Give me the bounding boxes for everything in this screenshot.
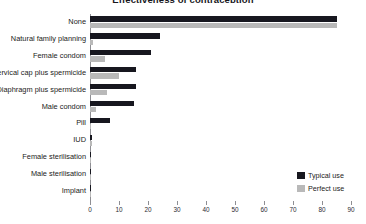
chart-row: Natural family planning xyxy=(90,31,351,48)
category-label: Male sterilisation xyxy=(31,166,86,183)
x-axis-tick xyxy=(351,201,352,205)
x-axis-tick xyxy=(293,201,294,205)
chart-row: Male condom xyxy=(90,99,351,116)
bar-typical-use xyxy=(90,84,136,89)
chart-row: Cervical cap plus spermicide xyxy=(90,65,351,82)
chart-row: IUD xyxy=(90,132,351,149)
bar-perfect-use xyxy=(90,23,337,28)
bar-perfect-use xyxy=(90,124,91,129)
category-label: Pill xyxy=(76,115,86,132)
legend-swatch-icon xyxy=(297,172,305,180)
bar-perfect-use xyxy=(90,73,119,78)
x-axis-tick-label: 0 xyxy=(88,206,92,213)
category-label: None xyxy=(68,14,86,31)
x-axis-tick xyxy=(148,201,149,205)
category-label: Diaphragm plus spermicide xyxy=(0,82,86,99)
bar-typical-use xyxy=(90,118,110,123)
legend-swatch-icon xyxy=(297,185,305,193)
x-axis-tick xyxy=(119,201,120,205)
bar-perfect-use xyxy=(90,192,91,197)
bar-typical-use xyxy=(90,185,91,190)
x-axis-tick xyxy=(235,201,236,205)
category-label: Natural family planning xyxy=(11,31,86,48)
x-axis-tick xyxy=(177,201,178,205)
chart-row: None xyxy=(90,14,351,31)
chart-legend: Typical usePerfect use xyxy=(297,170,344,196)
category-label: IUD xyxy=(73,132,86,149)
x-axis-tick-label: 60 xyxy=(260,206,267,213)
x-axis-tick xyxy=(90,201,91,205)
x-axis-tick-label: 10 xyxy=(115,206,122,213)
category-label: Cervical cap plus spermicide xyxy=(0,65,86,82)
x-axis-tick-label: 20 xyxy=(144,206,151,213)
chart-row: Female condom xyxy=(90,48,351,65)
bar-typical-use xyxy=(90,33,160,38)
bar-typical-use xyxy=(90,101,134,106)
legend-item[interactable]: Typical use xyxy=(297,170,344,181)
bar-perfect-use xyxy=(90,90,107,95)
bar-perfect-use xyxy=(90,175,91,180)
x-axis-tick-label: 30 xyxy=(173,206,180,213)
chart-row: Diaphragm plus spermicide xyxy=(90,82,351,99)
bar-perfect-use xyxy=(90,107,96,112)
x-axis-tick-label: 40 xyxy=(202,206,209,213)
x-axis-tick-label: 90 xyxy=(347,206,354,213)
legend-label: Typical use xyxy=(308,171,344,180)
x-axis-tick-label: 50 xyxy=(231,206,238,213)
bar-perfect-use xyxy=(90,158,91,163)
legend-item[interactable]: Perfect use xyxy=(297,183,344,194)
chart-row: Female sterilisation xyxy=(90,149,351,166)
bar-typical-use xyxy=(90,152,91,157)
bar-perfect-use xyxy=(90,56,105,61)
category-label: Male condom xyxy=(42,99,86,116)
bar-typical-use xyxy=(90,50,151,55)
x-axis-tick xyxy=(322,201,323,205)
x-axis-tick-label: 70 xyxy=(289,206,296,213)
bar-perfect-use xyxy=(90,40,93,45)
bar-typical-use xyxy=(90,67,136,72)
x-axis-tick xyxy=(264,201,265,205)
chart-row: Pill xyxy=(90,115,351,132)
chart-container: Effectiveness of contraception NoneNatur… xyxy=(0,0,366,224)
bar-typical-use xyxy=(90,135,92,140)
category-label: Implant xyxy=(62,183,86,200)
legend-label: Perfect use xyxy=(308,184,344,193)
x-axis-tick-label: 80 xyxy=(318,206,325,213)
category-label: Female sterilisation xyxy=(22,149,86,166)
x-axis: 0102030405060708090 xyxy=(90,201,351,223)
bar-typical-use xyxy=(90,169,91,174)
bar-perfect-use xyxy=(90,141,92,146)
category-label: Female condom xyxy=(33,48,86,65)
chart-title: Effectiveness of contraception xyxy=(0,0,366,3)
bar-typical-use xyxy=(90,16,337,21)
x-axis-tick xyxy=(206,201,207,205)
